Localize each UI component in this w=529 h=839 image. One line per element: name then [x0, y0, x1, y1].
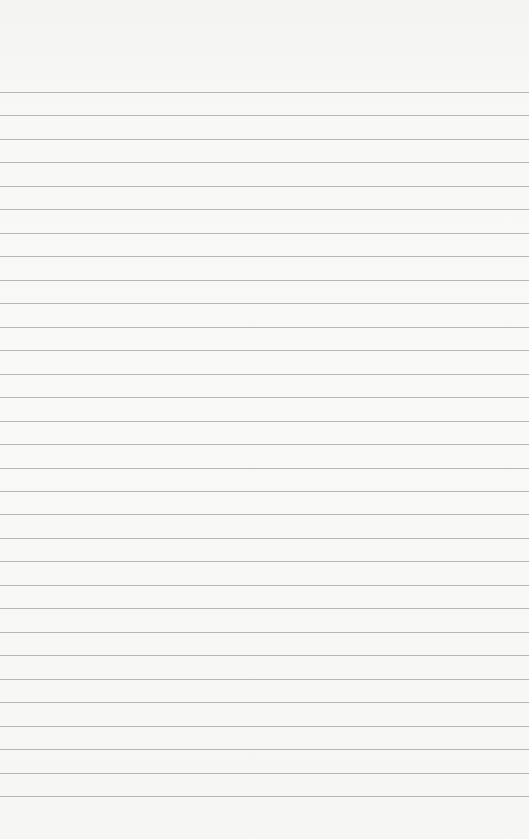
ruled-line [0, 702, 529, 703]
lined-paper [0, 0, 529, 839]
ruled-line [0, 726, 529, 727]
ruled-line [0, 256, 529, 257]
ruled-line [0, 233, 529, 234]
ruled-line [0, 561, 529, 562]
ruled-line [0, 491, 529, 492]
ruled-line [0, 397, 529, 398]
ruled-line [0, 162, 529, 163]
ruled-line [0, 209, 529, 210]
ruled-line [0, 327, 529, 328]
ruled-line [0, 186, 529, 187]
ruled-line [0, 538, 529, 539]
ruled-line [0, 350, 529, 351]
ruled-line [0, 421, 529, 422]
ruled-line [0, 303, 529, 304]
ruled-line [0, 280, 529, 281]
ruled-line [0, 632, 529, 633]
ruled-line [0, 773, 529, 774]
ruled-line [0, 374, 529, 375]
ruled-line [0, 749, 529, 750]
ruled-line [0, 92, 529, 93]
ruled-line [0, 655, 529, 656]
ruled-line [0, 796, 529, 797]
ruled-line [0, 514, 529, 515]
ruled-line [0, 444, 529, 445]
ruled-line [0, 139, 529, 140]
ruled-line [0, 468, 529, 469]
ruled-line [0, 585, 529, 586]
ruled-line [0, 115, 529, 116]
ruled-line [0, 608, 529, 609]
ruled-line [0, 679, 529, 680]
